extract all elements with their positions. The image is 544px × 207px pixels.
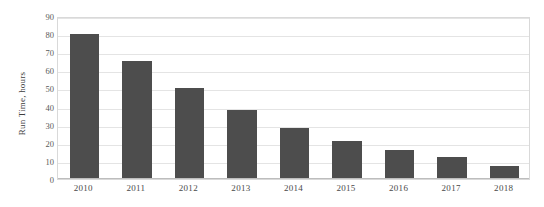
x-tick-label: 2014 (284, 183, 303, 193)
bars-group (58, 18, 529, 179)
bar (122, 61, 151, 179)
y-tick-label: 70 (46, 48, 55, 58)
x-axis-baseline (58, 178, 529, 179)
x-tick-label: 2016 (389, 183, 408, 193)
plot-area (57, 17, 530, 180)
bar (437, 157, 466, 179)
x-axis-tick-labels: 201020112012201320142015201620172018 (57, 183, 530, 199)
bar (385, 150, 414, 179)
bar (227, 110, 256, 179)
y-tick-label: 40 (46, 103, 55, 113)
y-tick-label: 0 (50, 175, 54, 185)
bar (332, 141, 361, 179)
y-tick-label: 30 (46, 121, 55, 131)
x-tick-label: 2015 (336, 183, 355, 193)
x-tick-label: 2010 (74, 183, 93, 193)
bar-chart: Run Time, hours 0102030405060708090 2010… (0, 0, 544, 207)
y-tick-label: 60 (46, 66, 55, 76)
y-tick-label: 90 (46, 12, 55, 22)
bar (280, 128, 309, 179)
y-tick-label: 80 (46, 30, 55, 40)
bar (70, 34, 99, 179)
x-tick-label: 2013 (231, 183, 250, 193)
x-tick-label: 2017 (442, 183, 461, 193)
x-tick-label: 2018 (494, 183, 513, 193)
bar (175, 88, 204, 179)
y-tick-label: 10 (46, 157, 55, 167)
x-tick-label: 2011 (126, 183, 145, 193)
y-axis-tick-labels: 0102030405060708090 (28, 17, 54, 180)
y-tick-label: 50 (46, 84, 55, 94)
x-tick-label: 2012 (179, 183, 198, 193)
y-tick-label: 20 (46, 139, 55, 149)
